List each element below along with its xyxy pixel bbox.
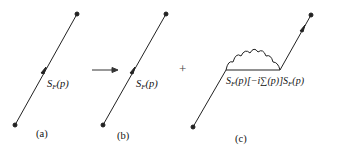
propagator-label-b: SF(p) bbox=[136, 79, 158, 91]
transition-arrow bbox=[92, 68, 118, 73]
diagram-c-self-energy bbox=[191, 13, 313, 129]
vertex-dot-bottom-c bbox=[191, 125, 195, 129]
label-argument: (p) bbox=[57, 78, 69, 89]
plus-operator: + bbox=[179, 62, 186, 75]
photon-wavy-line-icon bbox=[226, 49, 280, 70]
caption-b: (b) bbox=[117, 131, 129, 142]
arrow-icon-c bbox=[300, 25, 305, 32]
vertex-dot-top-a bbox=[75, 12, 79, 16]
vertex-dot-top-b bbox=[164, 12, 168, 16]
caption-a: (a) bbox=[36, 129, 48, 140]
diagram-a-propagator bbox=[13, 12, 79, 127]
incoming-line-c bbox=[193, 70, 226, 127]
propagator-label-a: SF(p) bbox=[47, 79, 69, 91]
label-argument-2: (p) bbox=[292, 75, 304, 86]
self-energy-term: [−i∑(p)] bbox=[247, 75, 283, 86]
vertex-dot-bottom-b bbox=[101, 123, 105, 127]
arrow-icon-a bbox=[41, 67, 46, 74]
label-argument-1: (p) bbox=[235, 75, 247, 86]
outgoing-line-c bbox=[280, 15, 311, 70]
label-argument: (p) bbox=[146, 78, 158, 89]
caption-c: (c) bbox=[235, 134, 247, 145]
self-energy-label-c: SF(p)[−i∑(p)]SF(p) bbox=[226, 76, 304, 88]
vertex-dot-bottom-a bbox=[13, 123, 17, 127]
arrow-icon-b bbox=[130, 67, 135, 74]
right-arrow-icon bbox=[112, 68, 118, 73]
propagator-line-a bbox=[15, 14, 77, 125]
vertex-dot-top-c bbox=[309, 13, 313, 17]
